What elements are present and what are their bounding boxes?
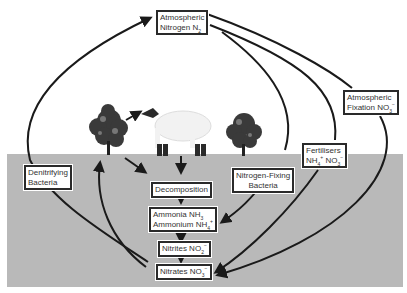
atmospheric-nitrogen-line2: Nitrogen N — [160, 23, 198, 32]
denitrifying-bacteria-box: Denitrifying Bacteria — [24, 165, 72, 190]
tree-right-illustration — [224, 108, 264, 156]
subscript: 4 — [318, 160, 321, 166]
subscript: 2 — [201, 249, 204, 255]
ammonium-line: Ammonium NH — [153, 220, 207, 229]
denitrifying-line2: Bacteria — [28, 178, 68, 188]
arrow-plant-to-decomposition — [125, 158, 145, 172]
atmospheric-nitrogen-line1: Atmospheric — [160, 13, 204, 23]
fertilisers-line1: Fertilisers — [306, 146, 343, 156]
nitrogen-fixing-line1: Nitrogen-Fixing — [236, 171, 290, 181]
subscript: 3 — [202, 272, 205, 278]
subscript: 4 — [207, 224, 210, 230]
nitrogen-fixing-line2: Bacteria — [236, 181, 290, 191]
fertilisers-nh4: NH — [306, 156, 318, 165]
subscript: 2 — [198, 27, 201, 33]
sheep-illustration — [135, 104, 215, 156]
nitrites-label: Nitrites NO — [162, 244, 201, 253]
arrow-nitrates-to-plant — [99, 163, 146, 267]
decomposition-box: Decomposition — [151, 182, 212, 198]
arrow-n2-to-atm-fixation — [207, 14, 352, 88]
nitrates-label: Nitrates NO — [160, 267, 202, 276]
fertilisers-no3: NO — [323, 156, 337, 165]
atmospheric-fixation-line1: Atmospheric — [347, 93, 395, 103]
nitrates-box: Nitrates NO3− — [156, 264, 212, 280]
ammonia-line: Ammonia NH — [153, 210, 201, 219]
atmospheric-fixation-box: Atmospheric Fixation NO3− — [343, 90, 399, 115]
tree-left-illustration — [86, 103, 132, 155]
superscript: − — [392, 101, 395, 107]
nitrogen-fixing-bacteria-box: Nitrogen-Fixing Bacteria — [232, 168, 294, 193]
superscript: − — [340, 154, 343, 160]
denitrifying-line1: Denitrifying — [28, 168, 68, 178]
atmospheric-nitrogen-box: Atmospheric Nitrogen N2 — [156, 10, 208, 35]
decomposition-label: Decomposition — [155, 185, 208, 195]
superscript: − — [204, 242, 207, 248]
ammonia-box: Ammonia NH3 Ammonium NH4+ — [149, 207, 217, 232]
subscript: 3 — [389, 107, 392, 113]
subscript: 3 — [338, 160, 341, 166]
atmospheric-fixation-line2: Fixation NO — [347, 103, 389, 112]
superscript: + — [210, 218, 213, 224]
fertilisers-box: Fertilisers NH4+ NO3− — [302, 143, 347, 168]
nitrites-box: Nitrites NO2− — [158, 241, 211, 257]
superscript: − — [205, 265, 208, 271]
